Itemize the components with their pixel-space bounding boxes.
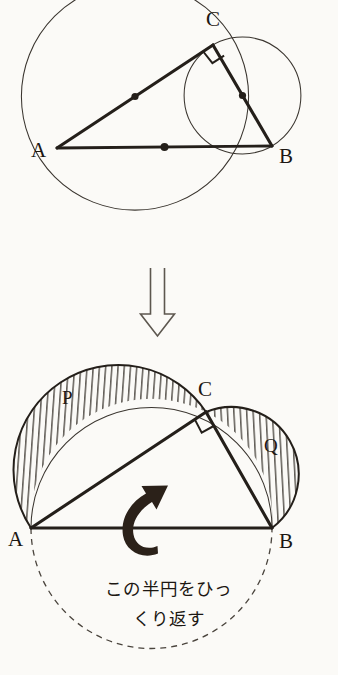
label-point-B-bottom: B [279,529,293,553]
label-point-C-bottom: C [198,377,212,401]
top-diagram: A B C [21,0,301,210]
figure-canvas: A B C [0,0,338,675]
bottom-diagram: P Q A B C [8,365,299,648]
geometry-figure: A B C [0,0,338,675]
midpoint-dot-CB [239,92,246,99]
circle-on-AC [21,0,248,210]
caption-line-1: この半円をひっ [0,578,338,600]
label-point-A-bottom: A [8,527,24,551]
label-region-Q: Q [264,435,278,456]
flip-curved-arrow [123,486,168,556]
midpoint-dot-AC [131,93,138,100]
lune-Q-region [206,407,299,528]
label-region-P: P [62,387,73,408]
transition-down-arrow [141,268,175,336]
lune-Q-fill [206,407,299,528]
label-point-C-top: C [206,7,220,31]
lune-P-fill [14,365,206,528]
label-point-B-top: B [279,144,293,168]
caption-line-2: くり返す [0,608,338,630]
midpoint-dot-AB [161,143,169,151]
label-point-A-top: A [31,138,47,162]
lune-P-region [14,365,206,528]
